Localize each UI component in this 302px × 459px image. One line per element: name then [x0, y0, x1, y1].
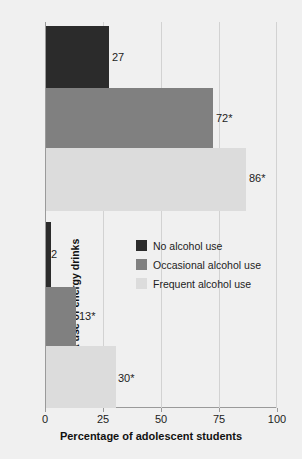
- y-group-label-any-use: Any use of energy drinks: [0, 22, 40, 211]
- bar-value-label-13: 13*: [79, 310, 96, 322]
- legend-item-frequent-alcohol-use: Frequent alcohol use: [136, 274, 261, 293]
- bar-any-use-no-alcohol: [46, 26, 109, 88]
- bar-frequent-use-no-alcohol: [46, 222, 51, 287]
- gridline-100: [276, 22, 277, 408]
- tickmark-50: [161, 408, 162, 412]
- bar-frequent-use-occasional-alcohol: [46, 287, 76, 346]
- legend-label-occasional-alcohol-use: Occasional alcohol use: [153, 259, 261, 271]
- gridline-75: [219, 22, 220, 408]
- legend-swatch-icon-occasional-alcohol-use: [136, 259, 147, 270]
- x-tick-label-100: 100: [268, 413, 286, 425]
- tickmark-0: [45, 408, 46, 412]
- tickmark-100: [277, 408, 278, 412]
- x-tick-label-75: 75: [213, 413, 225, 425]
- y-group-label-frequent-use: Frequent use of energy drinks: [0, 220, 40, 408]
- bar-value-label-30: 30*: [118, 372, 135, 384]
- plot-area: [45, 22, 277, 408]
- legend-swatch-icon-no-alcohol-use: [136, 240, 147, 251]
- legend-item-occasional-alcohol-use: Occasional alcohol use: [136, 255, 261, 274]
- bar-value-label-2: 2: [51, 248, 57, 260]
- bar-value-label-27: 27: [112, 51, 124, 63]
- tickmark-25: [103, 408, 104, 412]
- bar-any-use-occasional-alcohol: [46, 88, 213, 148]
- bar-chart-figure: Any use of energy drinks Frequent use of…: [0, 0, 302, 459]
- legend: No alcohol use Occasional alcohol use Fr…: [136, 236, 261, 293]
- legend-item-no-alcohol-use: No alcohol use: [136, 236, 261, 255]
- legend-swatch-icon-frequent-alcohol-use: [136, 278, 147, 289]
- x-tick-label-25: 25: [97, 413, 109, 425]
- bar-frequent-use-frequent-alcohol: [46, 346, 116, 408]
- gridline-50: [161, 22, 162, 408]
- bar-any-use-frequent-alcohol: [46, 148, 246, 211]
- x-tick-label-0: 0: [42, 413, 48, 425]
- x-tick-label-50: 50: [155, 413, 167, 425]
- x-axis-title: Percentage of adolescent students: [0, 430, 302, 442]
- bar-value-label-72: 72*: [216, 112, 233, 124]
- legend-label-frequent-alcohol-use: Frequent alcohol use: [153, 278, 251, 290]
- bar-value-label-86: 86*: [249, 172, 266, 184]
- tickmark-75: [219, 408, 220, 412]
- legend-label-no-alcohol-use: No alcohol use: [153, 240, 222, 252]
